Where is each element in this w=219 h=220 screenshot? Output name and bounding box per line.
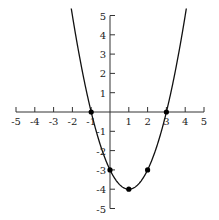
y-tick-label: 1: [100, 88, 106, 99]
y-tick-label: 2: [100, 68, 106, 79]
y-tick-label: -1: [96, 126, 106, 137]
data-point: [89, 109, 94, 114]
x-tick-label: -3: [49, 116, 59, 127]
data-point: [164, 109, 169, 114]
x-tick-label: -2: [68, 116, 78, 127]
y-tick-label: 3: [100, 49, 106, 60]
data-point: [145, 167, 150, 172]
y-tick-label: -5: [96, 204, 106, 215]
parabola-chart: -5-4-3-2-112345-5-4-3-2-112345: [0, 0, 219, 220]
x-tick-label: 5: [201, 116, 207, 127]
parabola-path: [71, 8, 186, 189]
y-tick-label: -4: [96, 184, 106, 195]
y-tick-label: -2: [96, 146, 106, 157]
data-point: [107, 167, 112, 172]
x-tick-label: 1: [126, 116, 132, 127]
y-tick-label: 5: [100, 11, 106, 22]
x-tick-label: 4: [182, 116, 188, 127]
parabola-curve: [71, 8, 186, 189]
x-tick-label: -1: [86, 116, 96, 127]
y-tick-label: 4: [100, 30, 106, 41]
axes: [16, 16, 204, 209]
x-tick-label: -4: [30, 116, 40, 127]
data-point: [126, 187, 131, 192]
x-tick-label: 2: [144, 116, 150, 127]
y-tick-label: -3: [96, 165, 106, 176]
x-tick-label: 3: [163, 116, 169, 127]
x-tick-label: -5: [11, 116, 21, 127]
